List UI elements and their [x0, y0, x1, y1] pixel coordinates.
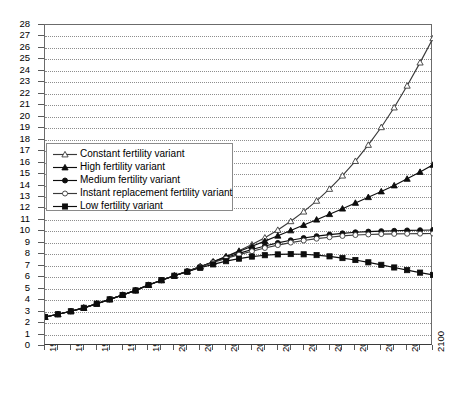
- data-point: [314, 252, 319, 257]
- y-tick-label: 15: [4, 168, 30, 178]
- series-2: [45, 227, 433, 319]
- y-tick-label: 18: [4, 134, 30, 144]
- data-point: [55, 312, 60, 317]
- data-point: [236, 256, 241, 261]
- x-tick-label: 2100: [436, 331, 446, 352]
- y-tick-label: 3: [4, 306, 30, 316]
- data-point: [301, 252, 306, 257]
- legend-label: Instant replacement fertility variant: [78, 186, 232, 199]
- y-tick-label: 2: [4, 317, 30, 327]
- data-point: [81, 305, 86, 310]
- y-tick-label: 10: [4, 225, 30, 235]
- y-tick-label: 5: [4, 283, 30, 293]
- data-point: [211, 262, 216, 267]
- legend-marker-filled-triangle-icon: [52, 160, 78, 173]
- series-line: [45, 234, 433, 317]
- legend: Constant fertility variantHigh fertility…: [46, 143, 233, 211]
- legend-item-4: Low fertility variant: [52, 199, 232, 212]
- population-projection-chart: 0123456789101112131415161718192021222324…: [0, 0, 467, 399]
- data-point: [379, 262, 384, 267]
- legend-item-1: High fertility variant: [52, 160, 232, 173]
- data-point: [404, 176, 410, 182]
- data-point: [417, 270, 422, 275]
- data-point: [405, 268, 410, 273]
- y-tick-label: 23: [4, 76, 30, 86]
- data-point: [340, 255, 345, 260]
- y-tick-label: 28: [4, 19, 30, 29]
- legend-label: High fertility variant: [78, 160, 165, 173]
- y-tick-label: 13: [4, 191, 30, 201]
- y-tick-label: 1: [4, 329, 30, 339]
- data-point: [275, 227, 281, 233]
- data-point: [366, 232, 371, 237]
- y-tick-label: 20: [4, 111, 30, 121]
- series-line: [45, 254, 433, 317]
- data-point: [68, 309, 73, 314]
- y-tick-label: 11: [4, 214, 30, 224]
- data-point: [405, 231, 410, 236]
- data-point: [262, 253, 267, 258]
- data-point: [379, 232, 384, 237]
- data-point: [430, 272, 433, 277]
- data-point: [262, 245, 267, 250]
- data-point: [45, 314, 48, 319]
- legend-marker-filled-square-icon: [52, 199, 78, 212]
- legend-label: Constant fertility variant: [78, 147, 185, 160]
- y-tick-label: 19: [4, 122, 30, 132]
- series-4: [45, 251, 433, 319]
- data-point: [392, 265, 397, 270]
- data-point: [418, 231, 423, 236]
- data-point: [430, 162, 433, 168]
- y-tick-label: 21: [4, 99, 30, 109]
- y-tick-label: 26: [4, 42, 30, 52]
- data-point: [392, 231, 397, 236]
- data-point: [378, 188, 384, 194]
- series-3: [45, 231, 433, 319]
- data-point: [391, 104, 397, 110]
- y-tick-label: 6: [4, 271, 30, 281]
- data-point: [107, 297, 112, 302]
- series-line: [45, 230, 433, 317]
- y-tick-label: 17: [4, 145, 30, 155]
- data-point: [430, 35, 433, 41]
- data-point: [172, 273, 177, 278]
- data-point: [159, 278, 164, 283]
- legend-item-2: Medium fertility variant: [52, 173, 232, 186]
- legend-item-0: Constant fertility variant: [52, 147, 232, 160]
- data-point: [249, 254, 254, 259]
- data-point: [133, 288, 138, 293]
- y-tick-label: 4: [4, 294, 30, 304]
- y-tick-label: 8: [4, 248, 30, 258]
- legend-label: Low fertility variant: [78, 199, 163, 212]
- data-point: [288, 251, 293, 256]
- data-point: [146, 282, 151, 287]
- data-point: [314, 236, 319, 241]
- data-point: [327, 254, 332, 259]
- data-point: [301, 238, 306, 243]
- data-point: [198, 265, 203, 270]
- data-point: [223, 259, 228, 264]
- legend-marker-open-triangle-icon: [52, 147, 78, 160]
- y-tick-label: 24: [4, 65, 30, 75]
- data-point: [275, 252, 280, 257]
- y-tick-label: 22: [4, 88, 30, 98]
- legend-item-3: Instant replacement fertility variant: [52, 186, 232, 199]
- y-tick-label: 7: [4, 260, 30, 270]
- y-tick-label: 14: [4, 180, 30, 190]
- y-tick-label: 0: [4, 340, 30, 350]
- data-point: [249, 249, 254, 254]
- y-tick-label: 16: [4, 157, 30, 167]
- data-point: [404, 83, 410, 89]
- data-point: [353, 233, 358, 238]
- data-point: [288, 240, 293, 245]
- y-tick-label: 25: [4, 53, 30, 63]
- data-point: [120, 292, 125, 297]
- y-tick-label: 9: [4, 237, 30, 247]
- y-tick-label: 12: [4, 202, 30, 212]
- data-point: [340, 233, 345, 238]
- data-point: [391, 182, 397, 188]
- data-point: [353, 257, 358, 262]
- data-point: [185, 269, 190, 274]
- data-point: [431, 231, 434, 236]
- legend-label: Medium fertility variant: [78, 173, 180, 186]
